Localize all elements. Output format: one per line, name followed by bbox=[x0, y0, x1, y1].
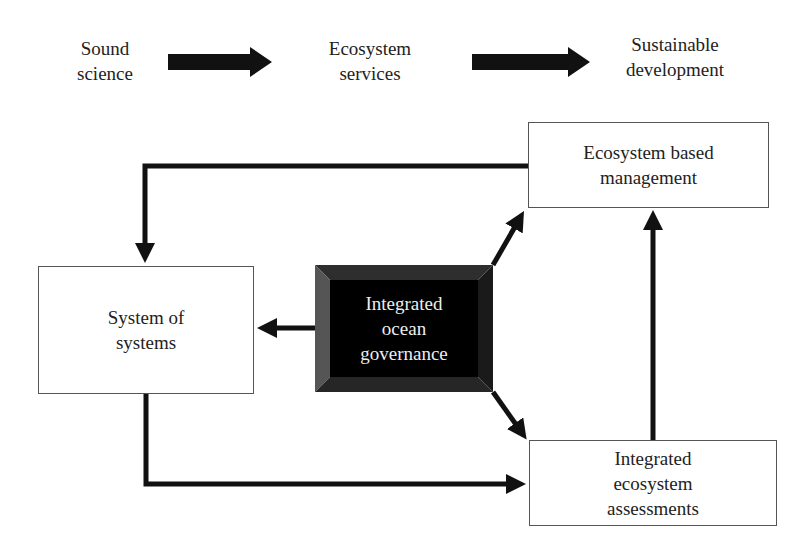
flow-step-sustainable-development: Sustainable development bbox=[595, 32, 755, 82]
flow-step-ecosystem-services: Ecosystem services bbox=[305, 36, 435, 86]
arrow-ebm-to-sos bbox=[145, 166, 528, 255]
flow-step-line: Sustainable bbox=[595, 32, 755, 57]
flow-step-line: Sound bbox=[60, 36, 150, 61]
box-label: Ecosystem based bbox=[583, 140, 713, 165]
box-label: management bbox=[583, 165, 713, 190]
arrow-services-to-development bbox=[472, 47, 590, 77]
flow-step-sound-science: Sound science bbox=[60, 36, 150, 86]
arrow-sos-to-iea bbox=[146, 392, 518, 484]
arrow-iog-to-iea bbox=[493, 392, 522, 433]
arrow-science-to-services bbox=[168, 47, 272, 77]
flow-step-line: development bbox=[595, 57, 755, 82]
box-ecosystem-based-management: Ecosystem based management bbox=[528, 122, 769, 208]
box-integrated-ecosystem-assessments: Integrated ecosystem assessments bbox=[529, 440, 777, 526]
box-label: ocean bbox=[360, 316, 448, 341]
box-label: governance bbox=[360, 341, 448, 366]
governance-label-area: Integrated ocean governance bbox=[330, 280, 478, 377]
box-label: ecosystem bbox=[607, 471, 699, 496]
box-system-of-systems: System of systems bbox=[38, 266, 254, 394]
box-integrated-ocean-governance: Integrated ocean governance bbox=[315, 265, 493, 392]
box-label: Integrated bbox=[607, 446, 699, 471]
flow-step-line: science bbox=[60, 61, 150, 86]
flow-step-line: Ecosystem bbox=[305, 36, 435, 61]
box-label: systems bbox=[108, 330, 185, 355]
box-label: assessments bbox=[607, 496, 699, 521]
arrow-iog-to-ebm bbox=[493, 218, 520, 265]
flow-step-line: services bbox=[305, 61, 435, 86]
box-label: System of bbox=[108, 305, 185, 330]
box-label: Integrated bbox=[360, 291, 448, 316]
